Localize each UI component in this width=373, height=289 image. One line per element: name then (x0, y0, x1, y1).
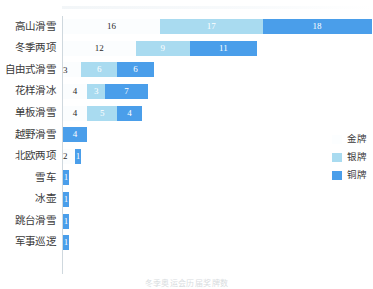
stacked-bar: 437 (63, 84, 373, 99)
bar-value-label: 1 (64, 173, 69, 182)
bar-value-label: 18 (313, 22, 322, 31)
stacked-bar: 454 (63, 106, 373, 121)
chart-row: 自由式滑雪366 (0, 59, 373, 81)
bar-segment-bronze: 1 (63, 192, 69, 207)
bar-segment-bronze: 1 (75, 149, 81, 164)
bar-segment-gold: 12 (63, 41, 136, 56)
category-label: 自由式滑雪 (0, 65, 56, 76)
bar-value-label: 9 (161, 44, 166, 53)
chart-row: 冰壶1 (0, 189, 373, 211)
category-label: 越野滑雪 (0, 130, 56, 141)
bar-value-label: 6 (133, 65, 138, 74)
bar-value-label: 3 (63, 65, 68, 74)
bar-segment-gold: 4 (63, 84, 87, 99)
stacked-bar: 12911 (63, 41, 373, 56)
bar-segment-gold: 4 (63, 106, 87, 121)
bar-segment-silver: 9 (136, 41, 190, 56)
category-label: 单板滑雪 (0, 108, 56, 119)
stacked-bar-chart: 高山滑雪161718冬季两项12911自由式滑雪366花样滑冰437单板滑雪45… (0, 0, 373, 289)
bar-segment-gold: 2 (63, 149, 75, 164)
bar-segment-bronze: 7 (105, 84, 147, 99)
chart-row: 跳台滑雪1 (0, 210, 373, 232)
bar-segment-bronze: 11 (190, 41, 257, 56)
bar-segment-bronze: 1 (63, 170, 69, 185)
bar-value-label: 1 (64, 238, 69, 247)
category-label: 雪车 (0, 173, 56, 184)
bar-value-label: 1 (64, 217, 69, 226)
chart-row: 花样滑冰437 (0, 81, 373, 103)
legend-label: 银牌 (347, 153, 367, 163)
bar-segment-bronze: 1 (63, 214, 69, 229)
bar-value-label: 1 (64, 195, 69, 204)
legend-label: 铜牌 (347, 171, 367, 181)
legend-swatch-icon (332, 135, 342, 144)
chart-row: 军事巡逻1 (0, 232, 373, 254)
bar-segment-silver: 6 (81, 62, 117, 77)
chart-row: 高山滑雪161718 (0, 16, 373, 38)
bar-segment-silver: 3 (87, 84, 105, 99)
bar-value-label: 5 (100, 109, 105, 118)
category-label: 北欧两项 (0, 151, 56, 162)
bar-value-label: 7 (124, 87, 129, 96)
stacked-bar: 1 (63, 235, 373, 250)
bar-value-label: 2 (63, 152, 68, 161)
chart-row: 冬季两项12911 (0, 38, 373, 60)
stacked-bar: 1 (63, 214, 373, 229)
bar-value-label: 17 (207, 22, 216, 31)
bar-segment-gold: 3 (63, 62, 81, 77)
bar-value-label: 6 (97, 65, 102, 74)
bar-segment-bronze: 18 (263, 19, 372, 34)
bar-value-label: 11 (219, 44, 228, 53)
chart-legend: 金牌银牌铜牌 (293, 132, 367, 186)
bar-segment-silver: 5 (87, 106, 117, 121)
bar-value-label: 12 (95, 44, 104, 53)
bar-value-label: 3 (94, 87, 99, 96)
legend-swatch-icon (332, 171, 342, 180)
legend-item[interactable]: 铜牌 (293, 168, 367, 183)
bar-segment-bronze: 4 (63, 127, 87, 142)
chart-top-rule (62, 6, 373, 9)
stacked-bar: 161718 (63, 19, 373, 34)
bar-value-label: 4 (127, 109, 132, 118)
chart-caption: 冬季奥运会历届奖牌数 (0, 277, 373, 288)
category-label: 花样滑冰 (0, 86, 56, 97)
bar-segment-gold: 16 (63, 19, 160, 34)
bar-segment-silver: 17 (160, 19, 263, 34)
legend-item[interactable]: 银牌 (293, 150, 367, 165)
bar-segment-bronze: 1 (63, 235, 69, 250)
bar-segment-bronze: 6 (117, 62, 153, 77)
category-label: 军事巡逻 (0, 237, 56, 248)
legend-swatch-icon (332, 153, 342, 162)
bar-value-label: 4 (73, 130, 78, 139)
legend-item[interactable]: 金牌 (293, 132, 367, 147)
bar-value-label: 1 (76, 152, 81, 161)
stacked-bar: 1 (63, 192, 373, 207)
legend-label: 金牌 (347, 135, 367, 145)
bar-value-label: 4 (73, 87, 78, 96)
bar-segment-bronze: 4 (117, 106, 141, 121)
category-label: 冰壶 (0, 194, 56, 205)
bar-value-label: 4 (73, 109, 78, 118)
category-label: 冬季两项 (0, 43, 56, 54)
category-label: 高山滑雪 (0, 22, 56, 33)
bar-value-label: 16 (107, 22, 116, 31)
category-label: 跳台滑雪 (0, 216, 56, 227)
stacked-bar: 366 (63, 62, 373, 77)
chart-row: 单板滑雪454 (0, 102, 373, 124)
